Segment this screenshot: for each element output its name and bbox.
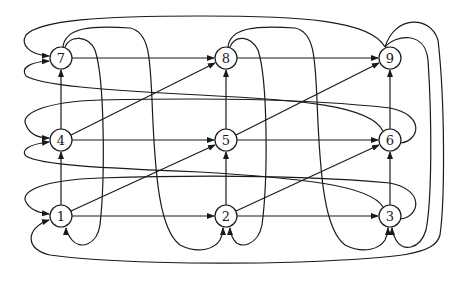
node-1: 1 xyxy=(50,205,72,227)
edge-5-9 xyxy=(236,63,379,135)
svg-text:4: 4 xyxy=(57,133,65,148)
edge-3-4 xyxy=(24,142,383,207)
node-5: 5 xyxy=(215,129,237,151)
svg-text:6: 6 xyxy=(386,133,394,148)
node-4: 4 xyxy=(50,129,72,151)
node-8: 8 xyxy=(215,47,237,69)
svg-text:9: 9 xyxy=(386,51,394,66)
graph-diagram: 1 2 3 4 5 6 7 8 xyxy=(0,0,466,282)
svg-text:2: 2 xyxy=(222,209,230,224)
svg-text:5: 5 xyxy=(222,133,230,148)
node-7: 7 xyxy=(50,47,72,69)
node-3: 3 xyxy=(379,205,401,227)
svg-text:8: 8 xyxy=(222,51,230,66)
node-2: 2 xyxy=(215,205,237,227)
svg-text:7: 7 xyxy=(57,51,65,66)
edge-6-7 xyxy=(24,61,383,131)
node-9: 9 xyxy=(379,47,401,69)
node-6: 6 xyxy=(379,129,401,151)
svg-text:3: 3 xyxy=(386,209,394,224)
edge-9-7 xyxy=(24,16,385,56)
svg-text:1: 1 xyxy=(57,209,65,224)
